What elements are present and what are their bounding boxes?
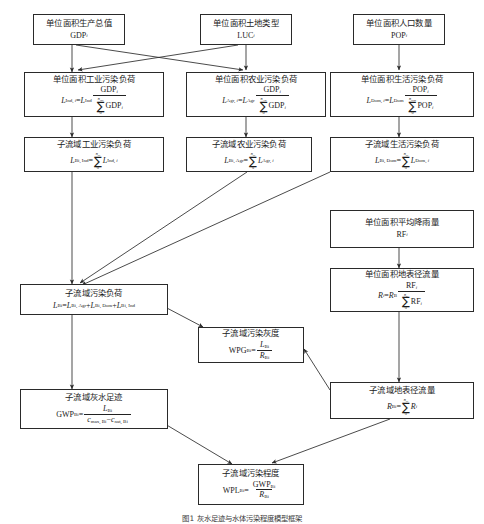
diagram-canvas: 单位面积生产总值 GDPi 单位面积土地类型 LUCi 单位面积人口数量 POP…: [0, 0, 484, 524]
node-label: 单位面积农业污染负荷: [215, 75, 297, 85]
node-formula: LBi=LBi, Agr+LBi, Dom+LBi, Ind: [53, 301, 135, 310]
node-unit-area-population[interactable]: 单位面积人口数量 POPi: [353, 14, 445, 45]
node-formula: LBi, Ind= nBi ∑ 0 LInd, i: [70, 152, 117, 169]
node-subbasin-pollution-greyness[interactable]: 子流域污染灰度 WPGBi= LBi RBi: [198, 327, 304, 363]
node-label: 单位面积人口数量: [366, 19, 432, 29]
node-label: 单位面积生活污染负荷: [361, 75, 443, 85]
node-subbasin-pollution-load[interactable]: 子流域污染负荷 LBi=LBi, Agr+LBi, Dom+LBi, Ind: [20, 284, 168, 315]
node-subbasin-pollution-degree[interactable]: 子流域污染程度 WPLBi= GWPBi RBi: [198, 464, 304, 505]
node-formula: LInd, i=LInd GDPi nInd ∑ 0 GDPi: [61, 86, 127, 114]
node-subbasin-surface-runoff[interactable]: 子流域地表径流量 RBi= nBi ∑ 0 Ri: [330, 382, 474, 419]
node-subbasin-industrial-load[interactable]: 子流域工业污染负荷 LBi, Ind= nBi ∑ 0 LInd, i: [24, 137, 164, 172]
node-label: 子流域生活污染负荷: [365, 140, 439, 150]
node-unit-area-land-use[interactable]: 单位面积土地类型 LUCi: [200, 14, 292, 45]
node-label: 单位面积生产总值: [46, 19, 112, 29]
node-formula: LDom, i=LDom POPi nDom ∑ 0 POPi: [366, 86, 437, 114]
node-formula: RBi= nBi ∑ 0 Ri: [387, 398, 417, 415]
node-label: 单位面积工业污染负荷: [53, 75, 135, 85]
node-label: 子流域农业污染负荷: [212, 140, 286, 150]
node-label: 子流域污染程度: [222, 469, 279, 479]
node-subbasin-domestic-load[interactable]: 子流域生活污染负荷 LBi, Dom= nBi ∑ 0 LDom, i: [330, 137, 474, 172]
node-label: 子流域污染负荷: [65, 289, 122, 299]
node-subbasin-grey-water-footprint[interactable]: 子流域灰水足迹 GWPBi= LBi cmax, Bi−cnat, Bi: [20, 389, 168, 429]
node-formula: RFi: [396, 230, 407, 239]
node-formula: GDPi: [70, 31, 87, 40]
node-formula: WPLBi= GWPBi RBi: [223, 481, 280, 500]
node-unit-area-average-rainfall[interactable]: 单位面积平均降雨量 RFi: [330, 210, 474, 248]
node-formula: WPGBi= LBi RBi: [229, 341, 274, 360]
node-formula: LAgr, i=LAgr GDPi nAgr ∑ 0 GDPi: [222, 86, 290, 114]
node-label: 单位面积地表径流量: [365, 270, 439, 280]
node-label: 子流域灰水足迹: [65, 393, 122, 403]
node-unit-area-gdp[interactable]: 单位面积生产总值 GDPi: [33, 14, 125, 45]
node-unit-area-industrial-load[interactable]: 单位面积工业污染负荷 LInd, i=LInd GDPi nInd ∑ 0 GD…: [24, 72, 164, 117]
figure-caption: 图1 灰水足迹与水体污染程度模型框架: [0, 512, 484, 523]
node-unit-area-surface-runoff[interactable]: 单位面积地表径流量 Ri=RB RFi nR ∑ 0 RFi: [330, 268, 474, 312]
node-formula: GWPBi= LBi cmax, Bi−cnat, Bi: [56, 405, 132, 424]
node-label: 子流域地表径流量: [369, 386, 435, 396]
node-formula: LBi, Dom= nBi ∑ 0 LDom, i: [375, 152, 429, 169]
node-label: 子流域污染灰度: [222, 329, 279, 339]
node-label: 单位面积平均降雨量: [365, 218, 439, 228]
node-formula: POPi: [391, 31, 407, 40]
node-unit-area-agricultural-load[interactable]: 单位面积农业污染负荷 LAgr, i=LAgr GDPi nAgr ∑ 0 GD…: [186, 72, 326, 117]
node-formula: LBi, Agr= nBi ∑ 0 LAgr, i: [224, 152, 273, 169]
node-formula: Ri=RB RFi nR ∑ 0 RFi: [378, 282, 426, 310]
node-formula: LUCi: [237, 31, 254, 40]
node-label: 子流域工业污染负荷: [57, 140, 131, 150]
node-label: 单位面积土地类型: [213, 19, 279, 29]
node-subbasin-agricultural-load[interactable]: 子流域农业污染负荷 LBi, Agr= nBi ∑ 0 LAgr, i: [186, 137, 312, 172]
node-unit-area-domestic-load[interactable]: 单位面积生活污染负荷 LDom, i=LDom POPi nDom ∑ 0 PO…: [330, 72, 474, 117]
